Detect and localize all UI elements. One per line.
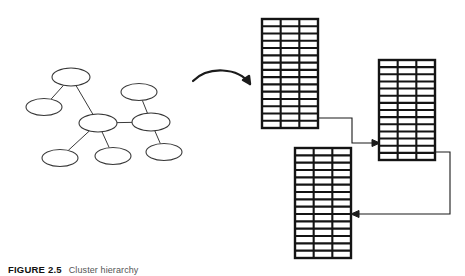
graph-node[interactable] [26,99,62,116]
diagram-graphic [0,0,465,276]
table-outline [295,148,351,258]
figure-caption-text: Cluster hierarchy [69,265,139,275]
graph-node[interactable] [146,144,182,161]
graph-edge [102,132,109,148]
connector-line [353,152,450,214]
graph-node[interactable] [79,114,117,132]
graph-node[interactable] [132,113,170,131]
connector-2-to-3 [351,152,450,218]
table-3[interactable] [295,148,351,258]
figure-label: FIGURE 2.5 [8,264,62,275]
graph-edge [142,100,147,113]
table-outline [262,19,318,128]
connector-arrow-head [351,211,359,218]
table-2[interactable] [379,60,435,160]
curved-transform-arrow [193,70,250,84]
connector-line [318,118,378,143]
figure-canvas [0,0,465,276]
transform-arrow-shaft [193,70,250,84]
graph-node[interactable] [42,150,78,167]
graph-node[interactable] [95,148,131,165]
graph-edge [155,131,161,144]
graph-node[interactable] [52,68,90,86]
connector-1-to-2 [318,118,380,147]
table-1[interactable] [262,19,318,128]
graph-edge [76,86,93,115]
graph-edge [68,131,89,150]
graph-node[interactable] [121,84,157,101]
figure-caption: FIGURE 2.5Cluster hierarchy [8,264,138,275]
network-graph [26,68,182,167]
graph-edge [51,85,64,99]
